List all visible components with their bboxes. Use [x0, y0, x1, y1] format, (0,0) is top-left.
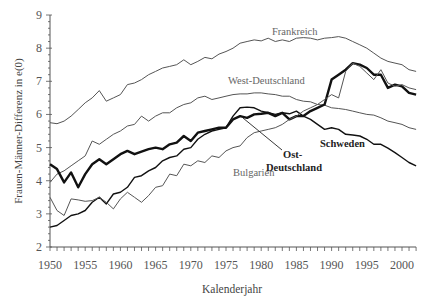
label-ost-deutschland-2: Deutschland: [266, 162, 322, 173]
x-tick-label: 1985: [284, 258, 308, 272]
y-axis-title: Frauen-Männer-Differenz in e(0): [12, 58, 25, 204]
x-axis-title: Kalenderjahr: [202, 283, 262, 296]
label-west-deutschland: West-Deutschland: [228, 75, 305, 86]
x-tick-label: 1950: [38, 258, 62, 272]
x-tick-label: 1990: [320, 258, 344, 272]
label-frankreich: Frankreich: [272, 26, 318, 37]
ost-deutschland-pointer: [243, 118, 282, 150]
x-tick-label: 1955: [73, 258, 97, 272]
y-tick-label: 8: [36, 41, 42, 55]
y-tick-label: 4: [36, 174, 42, 188]
y-tick-label: 3: [36, 207, 42, 221]
x-tick-label: 1995: [355, 258, 379, 272]
label-schweden: Schweden: [320, 138, 365, 149]
data-lines: [50, 37, 416, 228]
x-tick-label: 1960: [108, 258, 132, 272]
annotations: Frankreich West-Deutschland Bulgarien Os…: [12, 26, 365, 296]
y-tick-label: 6: [36, 107, 42, 121]
x-tick-label: 1980: [249, 258, 273, 272]
x-tick-label: 1975: [214, 258, 238, 272]
y-tick-label: 5: [36, 141, 42, 155]
x-tick-label: 1965: [144, 258, 168, 272]
y-tick-label: 9: [36, 8, 42, 22]
y-tick-label: 2: [36, 240, 42, 254]
x-tick-label: 2000: [390, 258, 414, 272]
y-tick-label: 7: [36, 74, 42, 88]
label-ost-deutschland-1: Ost-: [283, 149, 303, 160]
x-tick-label: 1970: [179, 258, 203, 272]
line-chart: 2345678919501955196019651970197519801985…: [0, 0, 429, 304]
